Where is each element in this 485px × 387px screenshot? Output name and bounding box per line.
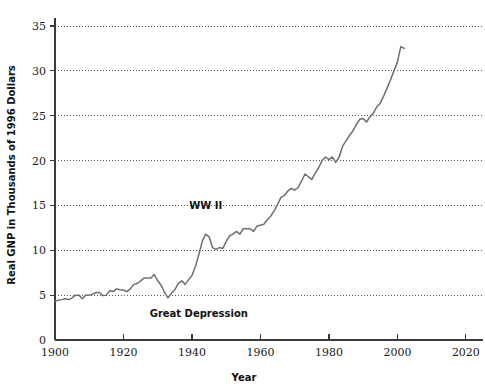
x-tick-label: 1920	[109, 346, 137, 359]
y-tick-label: 5	[39, 289, 46, 302]
y-tick-label: 10	[32, 244, 46, 257]
x-tick-label: 2020	[452, 346, 480, 359]
chart-annotation: Great Depression	[150, 308, 248, 319]
x-tick-label: 1980	[315, 346, 343, 359]
gnp-line-chart: 0510152025303519001920194019601980200020…	[0, 0, 485, 387]
y-tick-label: 35	[32, 20, 46, 33]
x-tick-label: 1940	[178, 346, 206, 359]
y-tick-label: 20	[32, 155, 46, 168]
y-tick-label: 25	[32, 110, 46, 123]
y-axis-title: Real GNP in Thousands of 1996 Dollars	[6, 65, 17, 285]
x-tick-label: 1900	[41, 346, 69, 359]
chart-container: 0510152025303519001920194019601980200020…	[0, 0, 485, 387]
y-tick-label: 15	[32, 199, 46, 212]
chart-annotation: WW II	[189, 200, 222, 211]
data-line-real-gnp	[55, 47, 404, 302]
x-tick-label: 1960	[246, 346, 274, 359]
x-axis-title: Year	[231, 372, 257, 383]
y-tick-label: 30	[32, 65, 46, 78]
x-tick-label: 2000	[383, 346, 411, 359]
